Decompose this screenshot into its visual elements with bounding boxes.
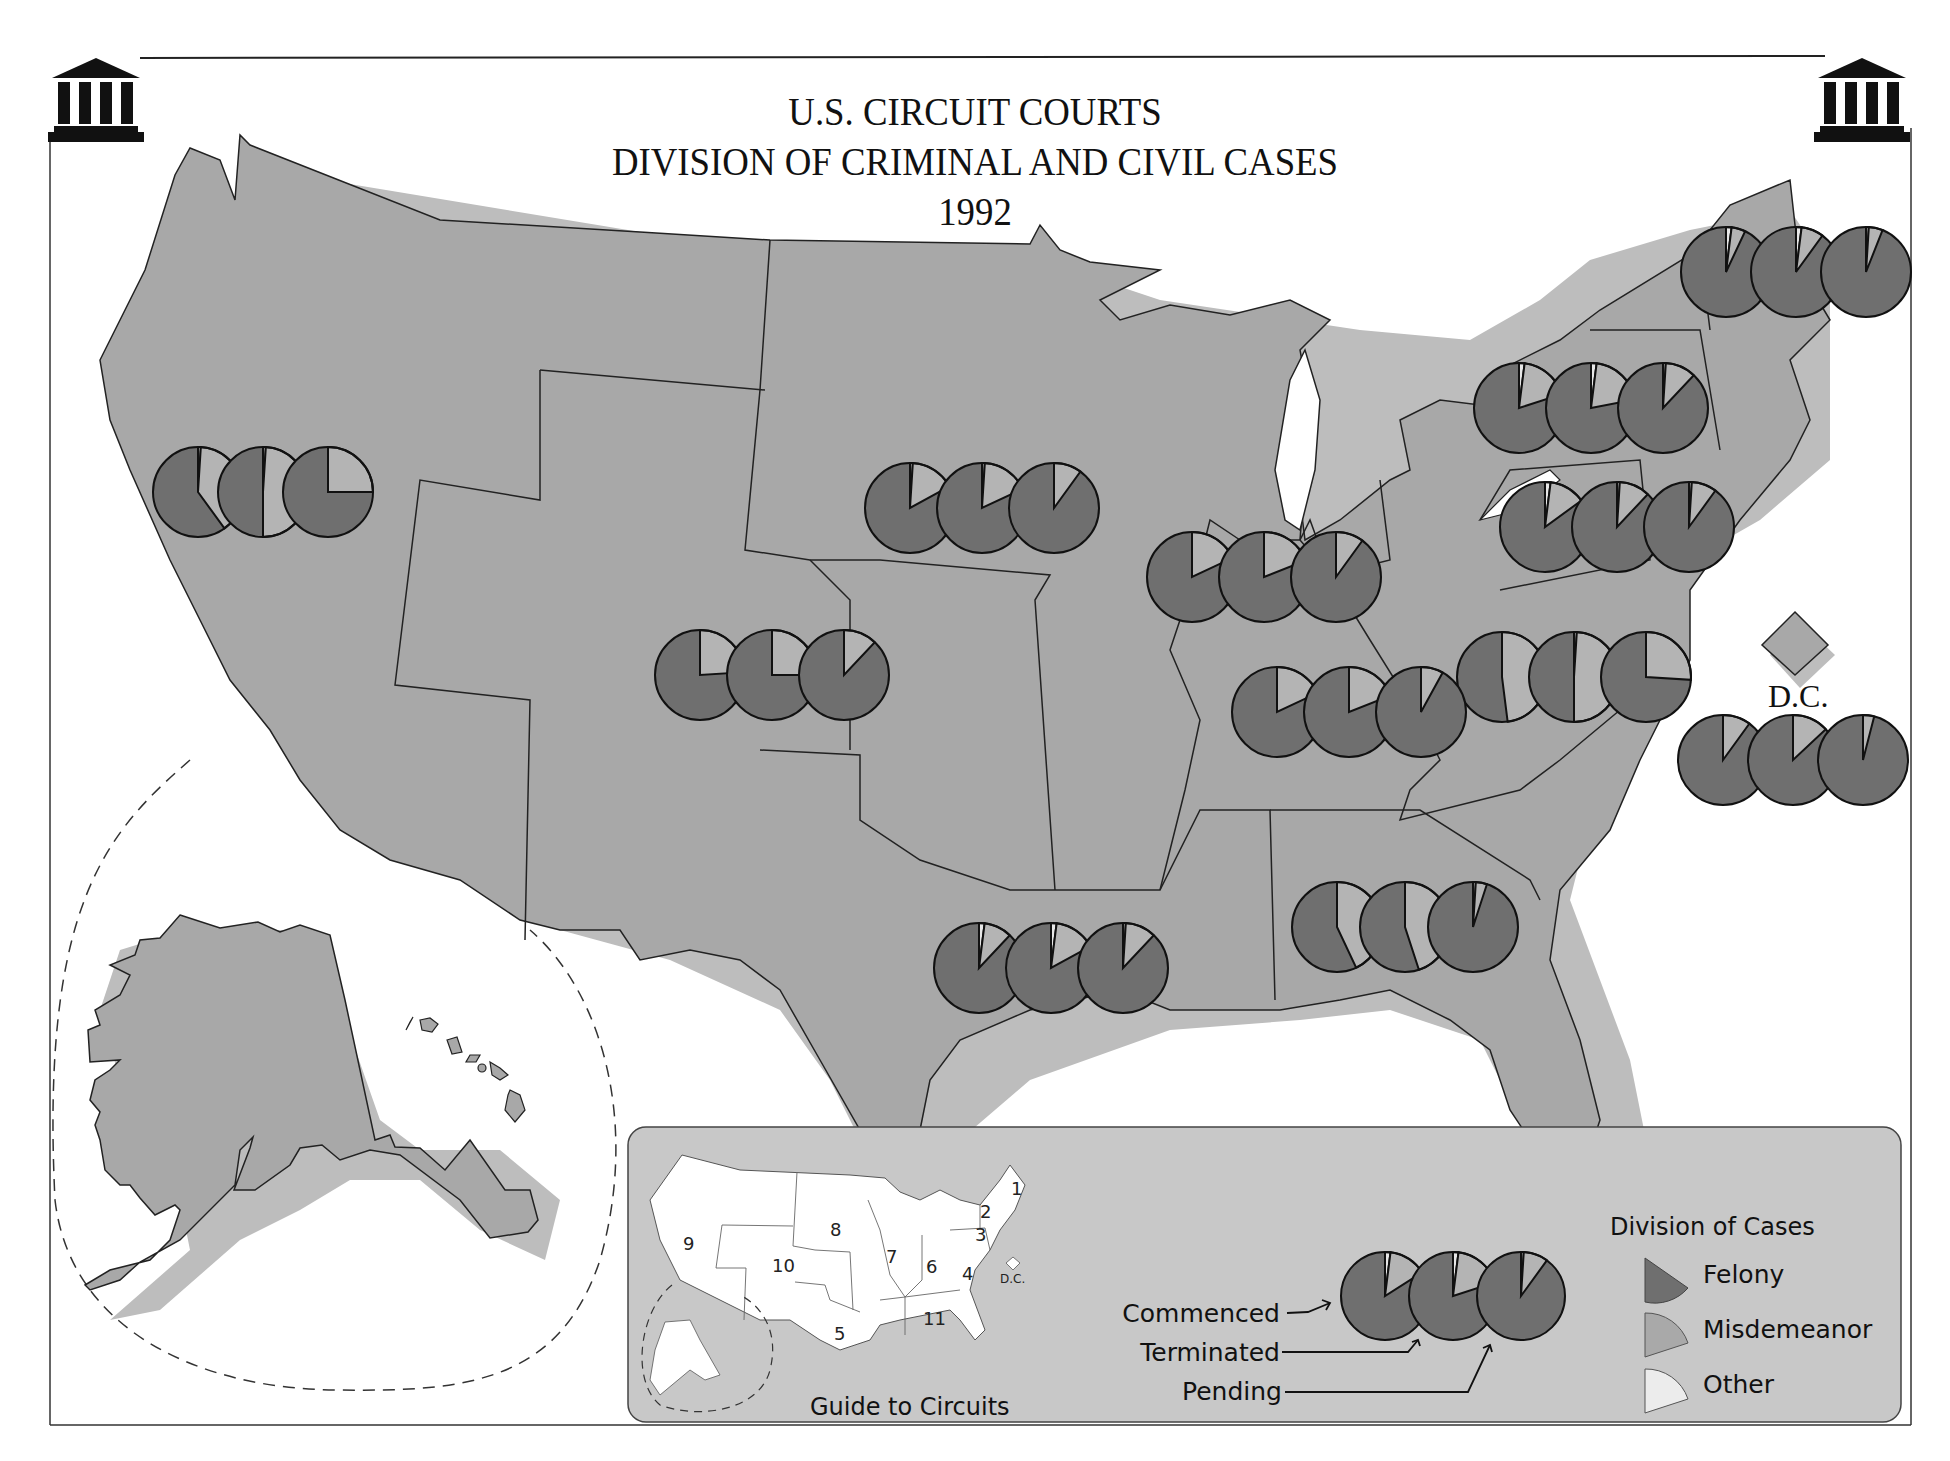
legend-label-other: Other xyxy=(1703,1370,1775,1399)
pie-circuit-11-pending xyxy=(1428,882,1518,972)
guide-label-7: 7 xyxy=(886,1246,897,1267)
legend-label-misdemeanor: Misdemeanor xyxy=(1703,1315,1873,1344)
guide-label-3: 3 xyxy=(975,1224,986,1245)
pie-circuit-dc-pending xyxy=(1818,715,1908,805)
pie-circuit-4-pending xyxy=(1601,632,1691,722)
hawaii-islands xyxy=(406,1017,525,1122)
title-line-2: DIVISION OF CRIMINAL AND CIVIL CASES xyxy=(78,142,1872,182)
pie-circuit-2-pending xyxy=(1618,363,1708,453)
guide-label-2: 2 xyxy=(980,1201,991,1222)
map-figure: 1 2 3 4 5 6 7 8 9 10 11 D.C. Guide to Ci… xyxy=(0,0,1950,1461)
pie-circuit-8-pending xyxy=(1009,463,1099,553)
pie-legend-pending xyxy=(1477,1252,1565,1340)
top-rule xyxy=(140,56,1825,58)
label-terminated: Terminated xyxy=(1139,1338,1280,1367)
guide-label-11: 11 xyxy=(923,1308,946,1329)
legend-title: Division of Cases xyxy=(1610,1213,1815,1241)
legend-label-felony: Felony xyxy=(1703,1260,1784,1289)
pie-circuit-7-pending xyxy=(1291,532,1381,622)
alaska xyxy=(85,915,538,1290)
guide-title: Guide to Circuits xyxy=(810,1393,1010,1421)
pie-circuit-5-pending xyxy=(1078,923,1168,1013)
dc-label: D.C. xyxy=(1768,678,1828,714)
guide-label-1: 1 xyxy=(1011,1178,1022,1199)
title-line-3: 1992 xyxy=(78,192,1872,232)
title-line-1: U.S. CIRCUIT COURTS xyxy=(78,92,1872,132)
pie-circuit-3-pending xyxy=(1644,482,1734,572)
pie-circuit-1-pending xyxy=(1821,227,1911,317)
label-commenced: Commenced xyxy=(1122,1299,1280,1328)
guide-label-10: 10 xyxy=(772,1255,795,1276)
pie-circuit-9-pending xyxy=(283,447,373,537)
label-pending: Pending xyxy=(1182,1377,1282,1406)
guide-label-4: 4 xyxy=(962,1263,973,1284)
guide-label-8: 8 xyxy=(830,1219,841,1240)
guide-label-6: 6 xyxy=(926,1256,937,1277)
guide-label-dc: D.C. xyxy=(1000,1272,1025,1286)
guide-label-5: 5 xyxy=(834,1323,845,1344)
pie-circuit-10-pending xyxy=(799,630,889,720)
guide-label-9: 9 xyxy=(683,1233,694,1254)
pie-circuit-6-pending xyxy=(1376,667,1466,757)
